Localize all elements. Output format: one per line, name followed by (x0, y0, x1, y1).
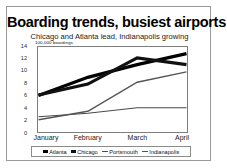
chart-title: Boarding trends, busiest airports (7, 14, 212, 30)
legend-label: Atlanta (49, 149, 66, 155)
x-tick-label: April (175, 134, 189, 141)
legend-item[interactable]: Portsmouth (102, 149, 138, 155)
y-tick-label: 12 (13, 55, 27, 61)
legend-item[interactable]: Chicago (71, 149, 98, 155)
legend-label: Portsmouth (109, 149, 138, 155)
legend-label: Indianapolis (149, 149, 179, 155)
y-tick-label: 0 (13, 130, 27, 136)
legend-swatch-icon (43, 150, 48, 153)
y-tick-label: 6 (13, 92, 27, 98)
legend-label: Chicago (77, 149, 98, 155)
series-line (39, 71, 187, 119)
legend-swatch-icon (102, 151, 108, 152)
y-tick-label: 4 (13, 105, 27, 111)
chart-legend: AtlantaChicagoPortsmouthIndianapolis (31, 146, 191, 157)
plot-area (37, 46, 188, 133)
y-tick-label: 10 (13, 67, 27, 73)
y-tick-label: 8 (13, 80, 27, 86)
x-tick-label: February (74, 134, 102, 141)
legend-item[interactable]: Atlanta (43, 149, 67, 155)
legend-swatch-icon (71, 150, 76, 153)
series-lines (38, 47, 187, 132)
y-tick-label: 2 (13, 117, 27, 123)
y-tick-label: 14 (13, 43, 27, 49)
x-tick-label: January (34, 134, 59, 141)
legend-item[interactable]: Indianapolis (142, 149, 179, 155)
y-axis-label: 100,000 boardings (35, 40, 73, 45)
legend-swatch-icon (142, 151, 148, 153)
chart-card: Boarding trends, busiest airports Chicag… (6, 6, 211, 161)
x-tick-label: March (128, 134, 147, 141)
